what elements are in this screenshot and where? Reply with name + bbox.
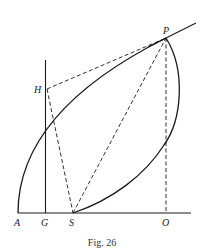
dashed-line-hp: [47, 38, 166, 89]
label-a: A: [13, 217, 21, 228]
dashed-line-hs: [47, 89, 73, 213]
geometry-figure: P H A G S O Fig. 26: [0, 0, 208, 252]
label-p: P: [162, 25, 169, 36]
figure-caption: Fig. 26: [88, 237, 116, 248]
parabola-curve: [18, 38, 166, 213]
tangent-line: [148, 23, 196, 47]
label-g: G: [41, 217, 48, 228]
label-o: O: [162, 217, 169, 228]
orbit-arc: [73, 38, 179, 213]
label-h: H: [33, 84, 42, 95]
label-s: S: [69, 217, 74, 228]
